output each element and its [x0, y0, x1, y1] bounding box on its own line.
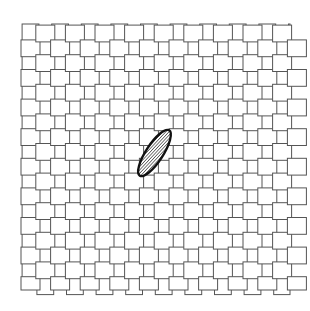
warp-strand [154, 25, 173, 42]
warp-strand [110, 99, 129, 116]
warp-strand [287, 247, 306, 264]
warp-strand [21, 40, 40, 57]
warp-strand [95, 55, 114, 72]
warp-strand [228, 129, 247, 146]
warp-strand [51, 40, 70, 57]
warp-strand [273, 55, 292, 72]
warp-strand [258, 70, 277, 87]
warp-strand [139, 247, 158, 264]
warp-strand [21, 188, 40, 205]
warp-strand [228, 218, 247, 235]
warp-strand [243, 232, 262, 249]
warp-strand [51, 129, 70, 146]
warp-strand [110, 247, 129, 264]
warp-strand [169, 70, 188, 87]
warp-strand [169, 188, 188, 205]
warp-strand [287, 158, 306, 175]
warp-strand [213, 144, 232, 161]
warp-strand [169, 99, 188, 116]
warp-strand [36, 84, 55, 101]
warp-strand [110, 218, 129, 235]
warp-strand [184, 232, 203, 249]
warp-strand [51, 218, 70, 235]
warp-strand [243, 262, 262, 279]
warp-strand [169, 40, 188, 57]
warp-strand [258, 247, 277, 264]
warp-strand [184, 173, 203, 190]
warp-strand [228, 158, 247, 175]
weave-canvas [0, 0, 310, 311]
warp-strand [125, 262, 144, 279]
warp-strand [110, 188, 129, 205]
warp-strand [80, 247, 99, 264]
warp-strand [65, 232, 84, 249]
warp-strand [36, 262, 55, 279]
warp-strand [199, 129, 218, 146]
warp-strand [287, 277, 306, 290]
warp-strand [95, 84, 114, 101]
warp-strand [273, 232, 292, 249]
warp-strand [287, 99, 306, 116]
warp-strand [36, 173, 55, 190]
warp-strand [51, 158, 70, 175]
warp-strand [139, 40, 158, 57]
warp-strand [213, 173, 232, 190]
warp-strand [154, 203, 173, 220]
warp-strand [184, 84, 203, 101]
warp-strand [110, 129, 129, 146]
warp-strand [95, 114, 114, 131]
warp-strand [110, 158, 129, 175]
warp-strand [243, 203, 262, 220]
warp-strand [154, 55, 173, 72]
warp-strand [51, 70, 70, 87]
warp-strand [213, 25, 232, 42]
warp-strand [21, 70, 40, 87]
warp-strand [287, 218, 306, 235]
warp-strand [125, 203, 144, 220]
warp-strand [228, 247, 247, 264]
warp-strand [228, 188, 247, 205]
warp-strand [243, 84, 262, 101]
warp-strand [51, 188, 70, 205]
warp-strand [273, 262, 292, 279]
warp-strand [199, 247, 218, 264]
warp-strand [125, 232, 144, 249]
warp-strand [65, 114, 84, 131]
warp-strand [273, 144, 292, 161]
warp-strand [21, 158, 40, 175]
warp-strand [243, 114, 262, 131]
warp-strand [125, 84, 144, 101]
warp-strand [110, 70, 129, 87]
warp-strand [65, 262, 84, 279]
warp-strand [258, 99, 277, 116]
warp-strand [184, 203, 203, 220]
warp-strand [125, 25, 144, 42]
warp-strand [273, 203, 292, 220]
warp-strand [184, 25, 203, 42]
warp-strand [169, 247, 188, 264]
warp-strand [51, 99, 70, 116]
warp-strand [273, 84, 292, 101]
warp-strand [154, 173, 173, 190]
warp-strand [65, 84, 84, 101]
warp-strand [184, 114, 203, 131]
warp-strand [154, 84, 173, 101]
warp-strand [80, 70, 99, 87]
warp-strand [65, 25, 84, 42]
warp-strand [95, 25, 114, 42]
warp-strand [258, 40, 277, 57]
warp-strand [243, 173, 262, 190]
weave-figure: Plain woven fabric with embedded ellipti… [0, 0, 310, 311]
warp-strand [258, 218, 277, 235]
warp-strand [184, 144, 203, 161]
warp-strand [95, 262, 114, 279]
warp-strand [36, 232, 55, 249]
warp-strand [287, 70, 306, 87]
warp-strand [21, 129, 40, 146]
warp-strand [36, 114, 55, 131]
warp-strand [21, 218, 40, 235]
warp-strand [80, 218, 99, 235]
warp-strand [213, 84, 232, 101]
warp-strand [213, 203, 232, 220]
warp-strand [273, 114, 292, 131]
